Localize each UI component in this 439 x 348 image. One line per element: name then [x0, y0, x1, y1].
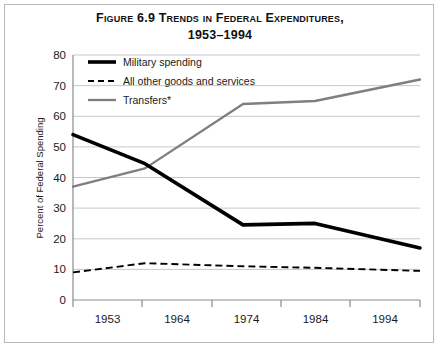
y-tick-label: 40 [53, 172, 66, 184]
y-axis-title: Percent of Federal Spending [34, 118, 45, 239]
legend-label-transfers: Transfers* [123, 94, 171, 106]
x-tick-label: 1964 [164, 313, 190, 325]
legend-label-military: Military spending [123, 56, 202, 68]
y-tick-label: 0 [60, 294, 66, 306]
x-axis-tick-labels: 1953 1964 1974 1984 1994 [95, 313, 399, 325]
x-tick-label: 1994 [372, 313, 398, 325]
y-tick-label: 60 [53, 110, 66, 122]
y-axis-tick-labels: 80 70 60 50 40 30 20 10 0 [53, 49, 66, 306]
x-tick-label: 1984 [303, 313, 329, 325]
series-line-military [73, 135, 420, 248]
x-tick-label: 1974 [234, 313, 260, 325]
y-tick-label: 30 [53, 202, 66, 214]
line-chart: 80 70 60 50 40 30 20 10 0 Percent of Fed… [0, 0, 439, 348]
figure-container: Figure 6.9 Trends in Federal Expenditure… [0, 0, 439, 348]
chart-legend: Military spending All other goods and se… [88, 56, 255, 106]
x-tick-label: 1953 [95, 313, 121, 325]
y-tick-label: 80 [53, 49, 66, 61]
legend-label-other-goods: All other goods and services [123, 75, 255, 87]
y-tick-label: 20 [53, 233, 66, 245]
series-line-other-goods [73, 263, 420, 272]
y-tick-label: 70 [53, 80, 66, 92]
x-axis-ticks [73, 300, 420, 307]
y-tick-label: 10 [53, 263, 66, 275]
y-tick-label: 50 [53, 141, 66, 153]
